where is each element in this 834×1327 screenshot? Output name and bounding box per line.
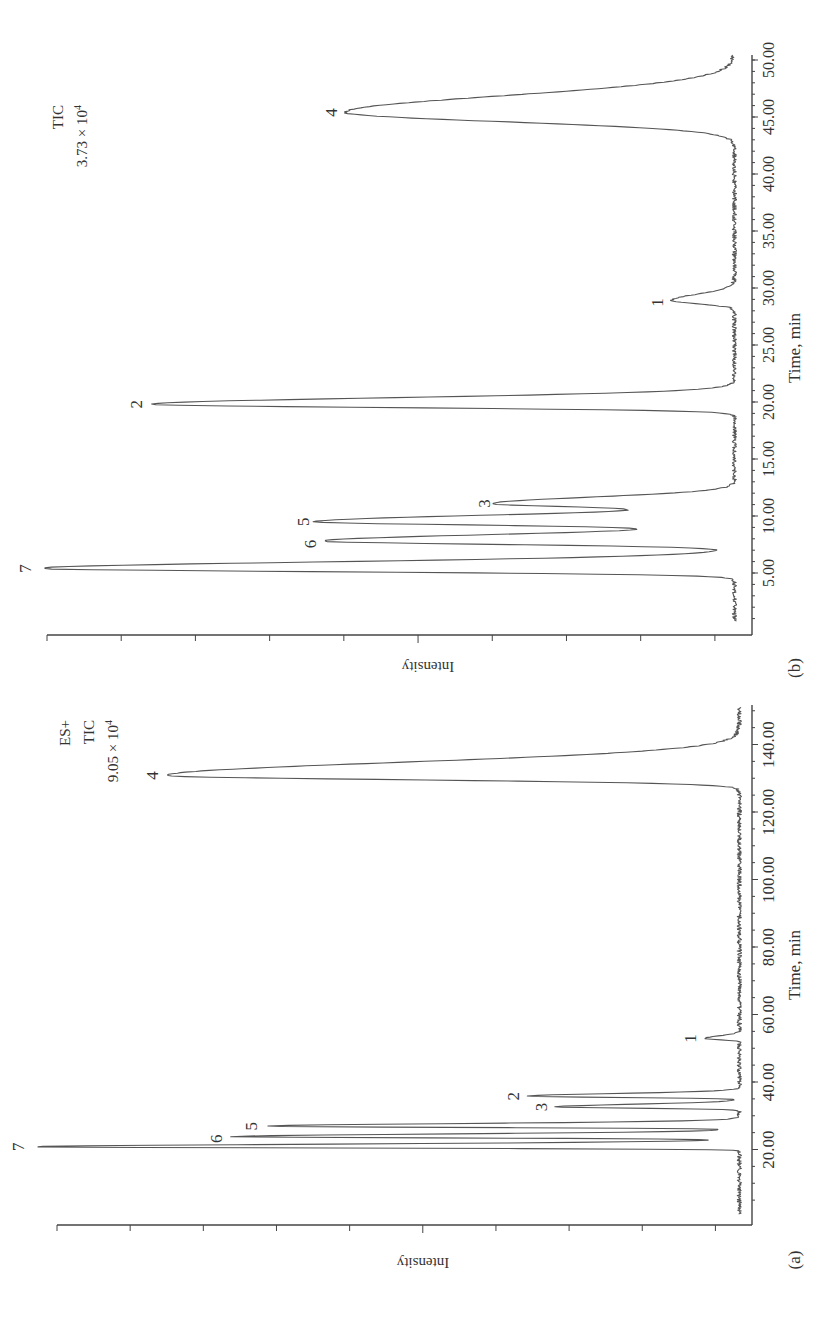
intensity-ticks-a [57,1225,715,1233]
time-tick-label: 45.00 [760,99,777,135]
annotation-max-b: 3.73 × 104 [72,105,90,167]
peak-label: 7 [9,1142,28,1151]
annotation-mode-a: ES+ [57,720,73,746]
intensity-ticks-b [47,635,715,643]
peak-label: 1 [681,1034,700,1043]
peak-label: 5 [294,517,313,526]
time-tick-label: 140.00 [759,721,778,768]
peak-label: 7 [16,564,35,573]
time-tick-label: 80.00 [759,928,778,966]
time-tick-label: 30.00 [760,270,777,306]
time-tick-label: 120.00 [759,789,778,836]
peak-label: 5 [242,1122,261,1131]
panel-label-b: (b) [785,658,804,678]
peak-label: 2 [504,1092,523,1101]
peak-labels-b: 7653214 [16,108,667,573]
annotation-max-a: 9.05 × 104 [103,720,121,782]
panel-label-a: (a) [785,1251,804,1270]
peak-label: 1 [648,298,667,307]
tic-trace-a [38,708,742,1215]
chromatogram-panel-a: 20.0040.0060.0080.00100.00120.00140.00 7… [9,705,804,1271]
time-tick-label: 40.00 [759,1063,778,1101]
time-axis-label-a: Time, min [785,929,804,1000]
time-tick-label: 60.00 [759,995,778,1033]
time-tick-label: 50.00 [760,42,777,78]
chromatogram-figure: 20.0040.0060.0080.00100.00120.00140.00 7… [0,0,834,1327]
peak-label: 2 [127,400,146,409]
intensity-axis-label-a: Intensity [396,1255,449,1271]
peak-label: 3 [475,499,494,508]
time-tick-label: 25.00 [760,327,777,363]
time-axis-label-b: Time, min [785,312,804,383]
peak-label: 3 [532,1103,551,1112]
time-tick-label: 100.00 [759,856,778,903]
annotation-max-exponent-a: 4 [103,720,114,725]
time-tick-label: 35.00 [760,213,777,249]
time-tick-label: 20.00 [760,384,777,420]
peak-label: 6 [207,1134,226,1143]
time-tick-label: 5.00 [760,559,777,587]
peak-label: 4 [322,108,341,117]
time-tick-label: 15.00 [760,441,777,477]
time-ticks-a: 20.0040.0060.0080.00100.00120.00140.00 [752,711,778,1200]
annotation-trace-a: TIC [81,720,97,744]
time-tick-label: 40.00 [760,156,777,192]
annotation-trace-b: TIC [50,105,66,129]
chromatogram-panel-b: 5.0010.0015.0020.0025.0030.0035.0040.004… [16,42,804,678]
intensity-axis-label-b: Intensity [401,659,454,675]
peak-label: 6 [301,540,320,549]
tic-trace-b [45,55,737,621]
time-ticks-b: 5.0010.0015.0020.0025.0030.0035.0040.004… [752,42,777,619]
peak-label: 4 [143,771,162,780]
time-tick-label: 20.00 [759,1130,778,1168]
annotation-max-value-b: 3.73 × 10 [74,110,90,167]
time-tick-label: 10.00 [760,498,777,534]
annotation-max-exponent-b: 4 [72,105,83,110]
annotation-max-value-a: 9.05 × 10 [105,725,121,782]
